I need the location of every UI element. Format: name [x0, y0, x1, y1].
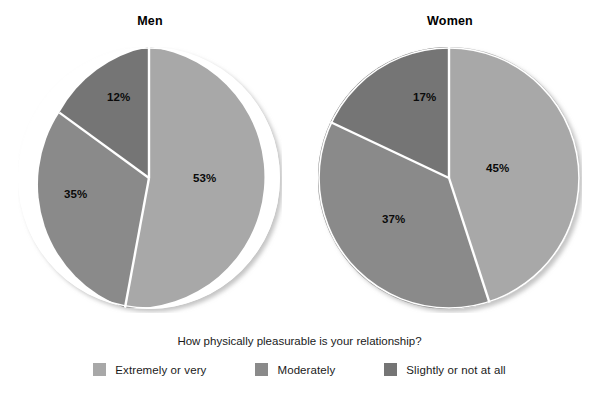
chart-caption: How physically pleasurable is your relat… [0, 335, 599, 347]
pie-women-label-moderately: 37% [382, 213, 405, 225]
legend-label-slightly-or-not-at-all: Slightly or not at all [406, 364, 505, 376]
legend-swatch-icon-moderately [255, 363, 268, 376]
legend-label-moderately: Moderately [277, 364, 335, 376]
legend-item-slightly-or-not-at-all: Slightly or not at all [384, 363, 505, 376]
legend-label-extremely-or-very: Extremely or very [115, 364, 206, 376]
legend-swatch-icon-extremely-or-very [93, 363, 106, 376]
legend-item-moderately: Moderately [255, 363, 335, 376]
legend-item-extremely-or-very: Extremely or very [93, 363, 206, 376]
pie-title-women: Women [380, 14, 520, 28]
pie-men: 53% 35% 12% [18, 47, 282, 313]
pie-women-label-extremely-or-very: 45% [486, 162, 509, 174]
pie-title-men: Men [80, 14, 220, 28]
pie-men-label-extremely-or-very: 53% [193, 172, 216, 184]
pie-chart-figure: Men Women 53 [0, 0, 599, 413]
pie-men-label-slightly-or-not-at-all: 12% [107, 91, 130, 103]
legend-swatch-icon-slightly-or-not-at-all [384, 363, 397, 376]
pie-women-label-slightly-or-not-at-all: 17% [413, 91, 436, 103]
chart-legend: Extremely or very Moderately Slightly or… [0, 363, 599, 376]
pie-men-label-moderately: 35% [64, 188, 87, 200]
pie-men-svg [18, 47, 282, 313]
pie-women-svg [318, 47, 582, 313]
pie-women: 45% 37% 17% [318, 47, 582, 313]
